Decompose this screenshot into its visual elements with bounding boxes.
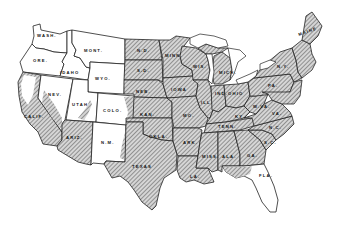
label-ill: ILL. [201,100,213,105]
label-wash: WASH. [37,33,57,38]
label-colo: COLO. [103,108,122,113]
label-mo: MO. [183,113,195,118]
label-neb: NEB. [136,89,151,94]
label-miss: MISS. [202,154,219,159]
label-ny: N.Y. [277,64,289,69]
label-tenn: TENN. [218,124,237,129]
label-iowa: IOWA [171,87,187,92]
label-calif: CALIF. [24,114,44,119]
label-pa: PA. [268,83,278,88]
label-sc: S.C. [264,140,277,145]
label-ark: ARK. [183,140,198,145]
label-mich: MICH. [219,70,237,75]
label-nc: N.C. [269,125,282,130]
label-ore: ORE. [33,58,48,63]
label-ky: KY. [235,114,245,119]
label-wva: W.VA. [253,104,271,109]
label-mont: MONT. [84,48,103,53]
label-texas: TEXAS [132,164,152,169]
label-fla: FLA. [259,173,273,178]
label-sd: S.D. [137,68,150,73]
label-idaho: IDAHO [60,70,80,75]
label-utah: UTAH [72,102,88,107]
label-ga: GA. [247,153,258,158]
state-ariz [57,120,93,165]
label-wyo: WYO. [95,76,111,81]
state-mich [212,52,232,84]
label-nm: N.M. [101,140,115,145]
label-nev: NEV. [48,92,62,97]
us-map: WASH. ORE. CALIF. IDAHO NEV. MONT. WYO. … [0,0,338,229]
label-minn: MINN. [165,53,183,58]
label-la: LA. [190,174,200,179]
label-ala: ALA. [222,154,237,159]
label-wis: WIS. [193,64,207,69]
label-ind: IND. [215,91,228,96]
label-kan: KAN. [140,112,155,117]
label-okla: OKLA. [149,134,168,139]
label-ohio: OHIO [228,91,244,96]
label-va: VA. [272,111,282,116]
lake-huron [228,48,246,80]
label-nd: N.D. [137,48,150,53]
label-ariz: ARIZ. [66,135,83,140]
